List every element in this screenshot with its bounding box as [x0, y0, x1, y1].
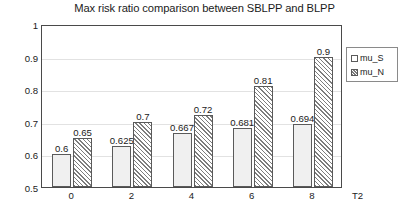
- bar-value-label: 0.667: [170, 122, 194, 133]
- bar-value-label: 0.65: [73, 127, 92, 138]
- chart-legend: mu_S mu_N: [346, 47, 398, 82]
- bar-mu_S-6[interactable]: [233, 128, 252, 187]
- x-axis-tick-label: 8: [309, 190, 314, 201]
- bar-mu_N-4[interactable]: [194, 115, 213, 187]
- legend-item-label: mu_N: [360, 67, 384, 77]
- bar-value-label: 0.81: [254, 75, 273, 86]
- bar-mu_N-2[interactable]: [133, 122, 152, 187]
- y-axis: 0.50.60.70.80.91: [0, 25, 38, 188]
- y-axis-tick-label: 0.7: [4, 117, 38, 128]
- bar-value-label: 0.9: [317, 46, 330, 57]
- bar-mu_S-4[interactable]: [173, 133, 192, 187]
- bar-mu_S-0[interactable]: [52, 154, 71, 187]
- bar-mu_N-0[interactable]: [73, 138, 92, 187]
- y-axis-tick-label: 1: [4, 20, 38, 31]
- x-axis-tick-label: 2: [129, 190, 134, 201]
- chart-title: Max risk ratio comparison between SBLPP …: [0, 2, 409, 14]
- bar-mu_S-8[interactable]: [293, 124, 312, 187]
- bar-value-label: 0.625: [110, 135, 134, 146]
- x-axis-tick-label: 0: [68, 190, 73, 201]
- x-axis: 02468: [41, 190, 342, 208]
- bar-mu_N-8[interactable]: [314, 57, 333, 187]
- bar-value-label: 0.72: [194, 104, 213, 115]
- bar-chart: Max risk ratio comparison between SBLPP …: [0, 0, 409, 219]
- legend-swatch-icon: [351, 69, 358, 76]
- gridline: [42, 91, 341, 92]
- x-axis-tick-label: 6: [249, 190, 254, 201]
- bar-value-label: 0.681: [230, 117, 254, 128]
- gridline: [42, 59, 341, 60]
- y-axis-tick-label: 0.9: [4, 52, 38, 63]
- plot-area: 0.60.650.6250.70.6670.720.6810.810.6940.…: [41, 25, 342, 188]
- legend-item-mu-s[interactable]: mu_S: [351, 51, 397, 65]
- bar-value-label: 0.7: [136, 111, 149, 122]
- bar-value-label: 0.694: [290, 113, 314, 124]
- bar-mu_N-6[interactable]: [254, 86, 273, 187]
- y-axis-tick-label: 0.6: [4, 150, 38, 161]
- y-axis-tick-label: 0.8: [4, 85, 38, 96]
- legend-item-label: mu_S: [360, 53, 384, 63]
- legend-swatch-icon: [351, 55, 358, 62]
- x-axis-tick-label: 4: [189, 190, 194, 201]
- legend-item-mu-n[interactable]: mu_N: [351, 65, 397, 79]
- x-axis-title: T2: [352, 190, 363, 201]
- bar-mu_S-2[interactable]: [112, 146, 131, 187]
- bar-value-label: 0.6: [55, 143, 68, 154]
- y-axis-tick-label: 0.5: [4, 183, 38, 194]
